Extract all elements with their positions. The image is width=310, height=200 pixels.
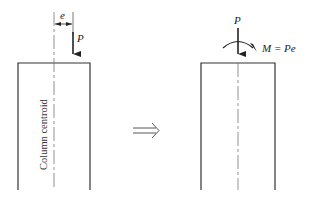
moment-arrow: M = Pe (223, 42, 296, 55)
left-load-label: P (76, 32, 84, 44)
eccentricity-label: e (60, 9, 65, 21)
right-load-label: P (233, 14, 241, 26)
diagram-canvas: e P Column centroid P M = Pe (0, 0, 310, 200)
moment-label: M = Pe (261, 42, 296, 54)
diagram-svg: e P Column centroid P M = Pe (0, 0, 310, 200)
centroid-label: Column centroid (38, 98, 49, 170)
eccentricity-dimension: e (55, 9, 73, 35)
left-load-arrow: P (73, 32, 84, 54)
right-column (201, 63, 275, 190)
implies-arrow (133, 123, 159, 138)
right-load-arrow: P (233, 14, 241, 54)
